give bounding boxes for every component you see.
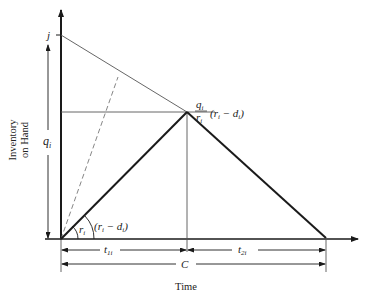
angle-arc-rd — [85, 216, 94, 239]
svg-text:on Hand: on Hand — [19, 121, 30, 158]
inventory-diagram: j qi qi ri (ri − di) ri (ri − di) t1i t2… — [0, 0, 371, 302]
peak-denominator: ri — [196, 111, 202, 125]
production-rate-dashed-line — [61, 77, 118, 239]
angle-rd-label: (ri − di) — [94, 220, 128, 234]
t1-label: t1i — [104, 243, 113, 257]
cycle-label: C — [181, 258, 189, 270]
depletion-line — [187, 112, 326, 238]
peak-numerator: qi — [196, 98, 204, 112]
t2-label: t2i — [238, 243, 247, 257]
q-label: qi — [43, 134, 51, 150]
j-line — [61, 35, 187, 112]
peak-expression: (ri − di) — [210, 107, 244, 121]
x-axis-title: Time — [175, 281, 197, 292]
angle-r-label: ri — [79, 223, 85, 237]
svg-text:Inventory: Inventory — [7, 119, 18, 161]
y-axis-title: Inventory on Hand — [7, 119, 30, 161]
j-label: j — [45, 29, 50, 41]
